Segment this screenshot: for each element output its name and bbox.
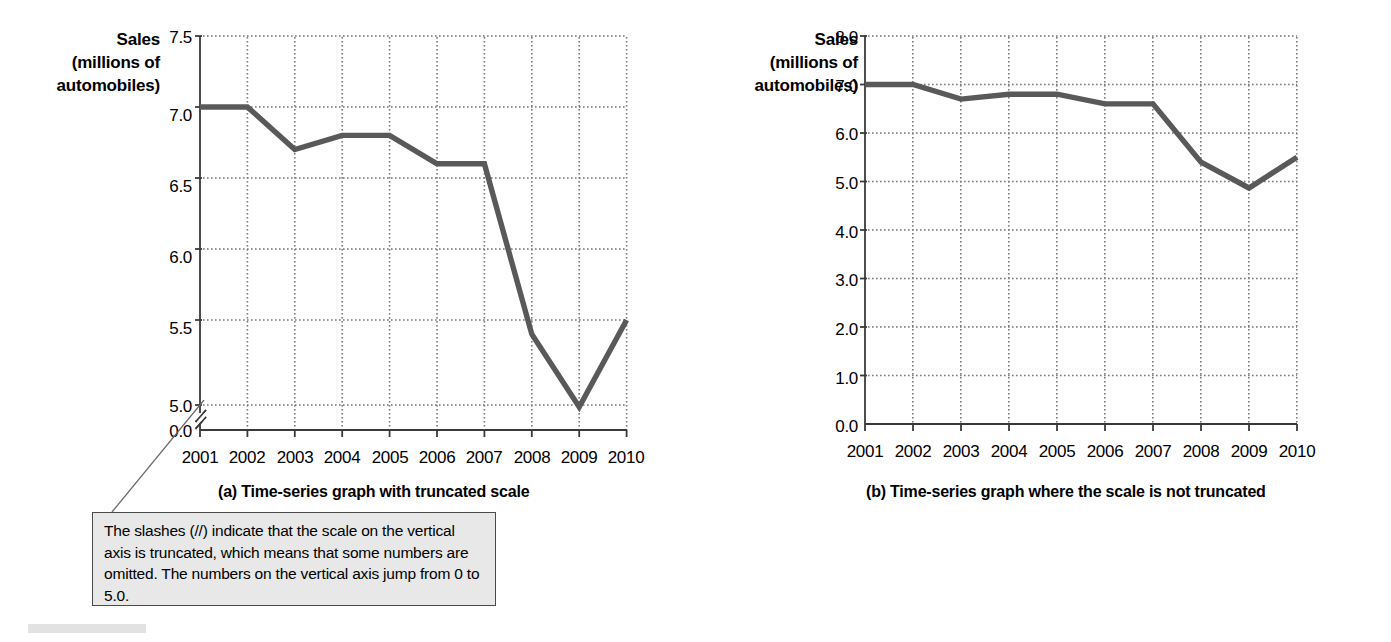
data-line-b [865, 85, 1297, 189]
x-tick-label-b-9: 2010 [1265, 443, 1329, 460]
chart-panel-b: Sales (millions of automobiles) 8.0 7.0 … [0, 0, 1391, 642]
y-tick-label-b-3: 5.0 [812, 175, 858, 192]
y-tick-label-b-4: 4.0 [812, 224, 858, 241]
y-tick-label-b-6: 2.0 [812, 321, 858, 338]
y-tick-label-b-7: 1.0 [812, 370, 858, 387]
plot-area-b [860, 25, 1340, 445]
y-tick-label-b-1: 7.0 [812, 78, 858, 95]
panel-b-caption: (b) Time-series graph where the scale is… [866, 482, 1286, 502]
gridlines-horizontal-b [865, 35, 1297, 376]
x-axis-ticks-b [865, 424, 1297, 431]
y-tick-label-b-0: 8.0 [812, 29, 858, 46]
y-tick-label-b-5: 3.0 [812, 272, 858, 289]
y-tick-label-b-2: 6.0 [812, 126, 858, 143]
y-axis-title-line-2: (millions of [680, 51, 858, 74]
y-tick-label-b-8: 0.0 [812, 418, 858, 435]
